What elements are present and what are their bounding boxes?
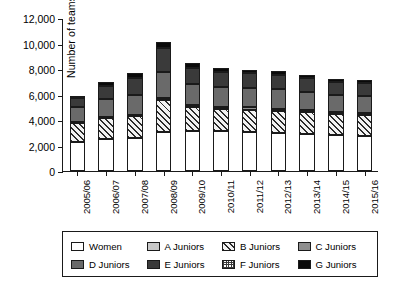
bar-segment-g bbox=[213, 68, 229, 72]
y-axis-tick-label: 10,000 bbox=[23, 39, 55, 51]
y-axis-tick bbox=[58, 172, 63, 173]
chart-legend: WomenA JuniorsB JuniorsC JuniorsD Junior… bbox=[62, 231, 378, 277]
bar-segment-e bbox=[156, 48, 172, 71]
x-axis-tick bbox=[336, 171, 337, 176]
bar-segment-c bbox=[271, 109, 287, 111]
bar-segment-b bbox=[156, 100, 172, 132]
legend-item-women[interactable]: Women bbox=[71, 237, 147, 255]
y-axis-tick bbox=[58, 96, 63, 97]
bar-segment-b bbox=[98, 118, 114, 138]
legend-swatch-icon bbox=[298, 242, 311, 251]
bar-2005-06 bbox=[70, 96, 86, 171]
bar-segment-e bbox=[299, 78, 315, 92]
legend-item-e[interactable]: E Juniors bbox=[147, 255, 223, 273]
y-axis-tick-label: 12,000 bbox=[23, 13, 55, 25]
bar-segment-b bbox=[213, 109, 229, 132]
bar-segment-d bbox=[98, 99, 114, 117]
legend-label: C Juniors bbox=[316, 241, 357, 252]
bar-segment-women bbox=[185, 131, 201, 171]
bar-2015-16 bbox=[357, 80, 373, 171]
x-axis-tick bbox=[365, 171, 366, 176]
bar-segment-c bbox=[185, 105, 201, 107]
bar-segment-b bbox=[70, 123, 86, 141]
x-axis-tick-label: 2010/11 bbox=[225, 180, 236, 213]
bar-2014-15 bbox=[328, 79, 344, 171]
bar-segment-d bbox=[271, 89, 287, 109]
y-axis-tick bbox=[58, 19, 63, 20]
bar-segment-women bbox=[156, 132, 172, 171]
y-axis-tick-label: 2,000 bbox=[29, 141, 55, 153]
bar-2010-11 bbox=[213, 68, 229, 171]
bar-segment-e bbox=[98, 86, 114, 100]
bar-segment-c bbox=[213, 107, 229, 109]
legend-item-b[interactable]: B Juniors bbox=[222, 237, 298, 255]
x-axis-tick-label: 2008/09 bbox=[168, 180, 179, 214]
x-axis-tick-label: 2009/10 bbox=[196, 180, 207, 214]
legend-label: B Juniors bbox=[240, 241, 280, 252]
bar-segment-e bbox=[213, 72, 229, 86]
legend-label: Women bbox=[89, 241, 122, 252]
bar-segment-g bbox=[156, 42, 172, 48]
legend-label: E Juniors bbox=[165, 259, 205, 270]
bar-segment-e bbox=[185, 68, 201, 84]
x-axis-tick-label: 2012/13 bbox=[282, 180, 293, 214]
bar-segment-d bbox=[357, 96, 373, 114]
legend-item-f[interactable]: F Juniors bbox=[222, 255, 298, 273]
legend-item-c[interactable]: C Juniors bbox=[298, 237, 374, 255]
legend-item-g[interactable]: G Juniors bbox=[298, 255, 374, 273]
bar-segment-g bbox=[271, 71, 287, 75]
bar-segment-women bbox=[299, 134, 315, 171]
x-axis-tick-label: 2006/07 bbox=[110, 180, 121, 214]
legend-label: A Juniors bbox=[165, 241, 204, 252]
bar-segment-g bbox=[242, 70, 258, 73]
bar-segment-g bbox=[357, 80, 373, 83]
bar-2013-14 bbox=[299, 75, 315, 171]
bar-2008-09 bbox=[156, 42, 172, 171]
legend-swatch-icon bbox=[71, 260, 84, 269]
bar-segment-b bbox=[185, 107, 201, 131]
x-axis-tick-label: 2011/12 bbox=[254, 180, 265, 213]
bar-segment-d bbox=[70, 107, 86, 122]
bar-2007-08 bbox=[127, 73, 143, 171]
y-axis-tick-label: 0 bbox=[49, 166, 55, 178]
legend-swatch-icon bbox=[222, 242, 235, 251]
legend-item-a[interactable]: A Juniors bbox=[147, 237, 223, 255]
bar-segment-g bbox=[70, 96, 86, 98]
y-axis-tick bbox=[58, 70, 63, 71]
bar-segment-d bbox=[185, 84, 201, 105]
bar-segment-c bbox=[328, 112, 344, 114]
x-axis-tick-label: 2014/15 bbox=[340, 180, 351, 214]
bar-segment-d bbox=[328, 95, 344, 113]
x-axis-tick bbox=[192, 171, 193, 176]
bar-segment-b bbox=[271, 111, 287, 133]
legend-label: D Juniors bbox=[89, 259, 130, 270]
y-axis-tick-label: 6,000 bbox=[29, 90, 55, 102]
y-axis-tick-label: 8,000 bbox=[29, 64, 55, 76]
x-axis-tick bbox=[164, 171, 165, 176]
bar-segment-g bbox=[98, 82, 114, 85]
bar-segment-c bbox=[357, 113, 373, 115]
bar-segment-women bbox=[242, 132, 258, 171]
bar-segment-women bbox=[271, 133, 287, 171]
bar-segment-g bbox=[127, 73, 143, 78]
x-axis-tick bbox=[307, 171, 308, 176]
plot-area: Number of teams 02,0004,0006,0008,00010,… bbox=[62, 19, 378, 172]
bar-segment-g bbox=[185, 63, 201, 67]
bar-2009-10 bbox=[185, 63, 201, 171]
x-axis-tick bbox=[250, 171, 251, 176]
bar-segment-b bbox=[357, 115, 373, 135]
y-axis-label: Number of teams bbox=[65, 0, 85, 97]
bar-segment-women bbox=[98, 139, 114, 171]
y-axis-tick bbox=[58, 147, 63, 148]
legend-label: G Juniors bbox=[316, 259, 357, 270]
legend-swatch-icon bbox=[71, 242, 84, 251]
legend-item-d[interactable]: D Juniors bbox=[71, 255, 147, 273]
legend-swatch-icon bbox=[147, 242, 160, 251]
bar-segment-b bbox=[127, 116, 143, 138]
bar-segment-d bbox=[299, 92, 315, 111]
bar-segment-b bbox=[328, 114, 344, 135]
bar-2006-07 bbox=[98, 82, 114, 171]
bar-segment-d bbox=[213, 87, 229, 107]
bar-chart-figure: Number of teams 02,0004,0006,0008,00010,… bbox=[0, 0, 400, 290]
bar-segment-d bbox=[156, 72, 172, 99]
